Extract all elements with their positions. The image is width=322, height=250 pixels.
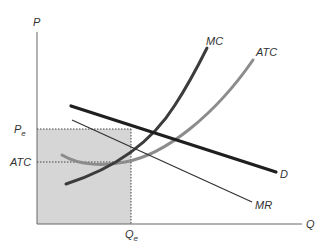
demand-label: D: [280, 168, 288, 180]
atc-level-label: ATC: [9, 156, 31, 168]
price-level-label-sub: e: [21, 129, 26, 138]
price-level-label: Pe: [14, 123, 26, 138]
mc-label: MC: [206, 35, 223, 47]
mr-label: MR: [255, 199, 272, 211]
atc-curve-label: ATC: [255, 46, 277, 58]
quantity-level-label-sub: e: [134, 234, 139, 243]
x-axis-label: Q: [306, 218, 315, 230]
monopoly-diagram: P Q MC ATC D MR Pe ATC Qe: [0, 0, 322, 250]
y-axis-label: P: [33, 16, 41, 28]
quantity-level-label: Qe: [125, 228, 139, 243]
